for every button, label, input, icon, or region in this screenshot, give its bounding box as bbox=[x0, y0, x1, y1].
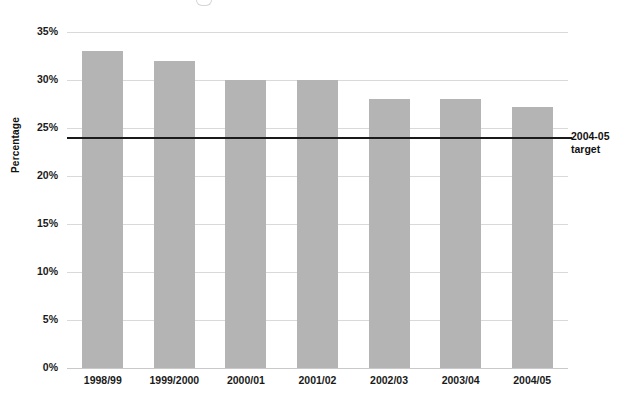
target-label-line1: 2004-05 bbox=[571, 130, 610, 143]
y-axis-tick-label: 25% bbox=[14, 121, 58, 133]
target-label-connector bbox=[560, 137, 572, 139]
y-axis-tick-label: 20% bbox=[14, 169, 58, 181]
x-axis-tick-label: 1999/2000 bbox=[139, 374, 211, 386]
plot-area bbox=[67, 32, 568, 368]
bar bbox=[512, 107, 553, 368]
bar bbox=[297, 80, 338, 368]
y-axis-tick-label: 15% bbox=[14, 217, 58, 229]
y-axis-tick-label: 35% bbox=[14, 25, 58, 37]
x-axis-tick-label: 1998/99 bbox=[67, 374, 139, 386]
target-threshold-line bbox=[67, 137, 572, 139]
bar bbox=[440, 99, 481, 368]
bar bbox=[225, 80, 266, 368]
cropped-title-artifact bbox=[196, 0, 212, 6]
bar bbox=[82, 51, 123, 368]
y-axis-tick-label: 30% bbox=[14, 73, 58, 85]
y-axis-title: Percentage bbox=[10, 53, 21, 173]
bar-chart: Percentage 0%5%10%15%20%25%30%35% 2004-0… bbox=[0, 0, 633, 399]
x-axis-tick-label: 2003/04 bbox=[425, 374, 497, 386]
x-axis-tick-label: 2000/01 bbox=[210, 374, 282, 386]
bar bbox=[154, 61, 195, 368]
x-axis-tick-label: 2001/02 bbox=[282, 374, 354, 386]
y-axis-tick-label: 0% bbox=[14, 361, 58, 373]
bar bbox=[369, 99, 410, 368]
x-axis-tick-label: 2004/05 bbox=[496, 374, 568, 386]
target-annotation-label: 2004-05 target bbox=[571, 130, 610, 156]
y-axis-tick-label: 10% bbox=[14, 265, 58, 277]
gridline bbox=[67, 368, 568, 369]
x-axis-tick-label: 2002/03 bbox=[353, 374, 425, 386]
y-axis-tick-label: 5% bbox=[14, 313, 58, 325]
gridline bbox=[67, 32, 568, 33]
target-label-line2: target bbox=[571, 143, 610, 156]
